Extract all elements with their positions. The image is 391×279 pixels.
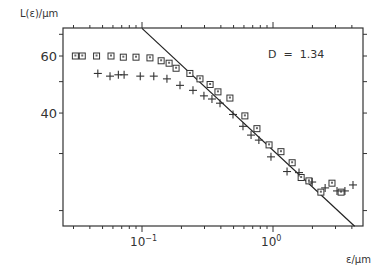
y-axis-label: L(ε)/μm bbox=[20, 8, 58, 19]
y-tick-labels: 6040 bbox=[40, 49, 57, 121]
cross-marker bbox=[136, 72, 144, 80]
cross-marker bbox=[106, 72, 114, 80]
cross-marker bbox=[229, 110, 237, 118]
y-tick-label: 60 bbox=[40, 49, 57, 64]
cross-marker bbox=[216, 99, 224, 107]
x-axis-label: ε/μm bbox=[346, 254, 371, 265]
x-tick-label: 10−1 bbox=[130, 234, 157, 249]
cross-marker bbox=[150, 72, 158, 80]
x-tick-label: 100 bbox=[261, 234, 281, 249]
chart: L(ε)/μm ε/μm D = 1.34 10−1100 6040 bbox=[0, 0, 391, 279]
square-series bbox=[72, 53, 344, 195]
cross-marker bbox=[267, 153, 275, 161]
cross-marker bbox=[349, 181, 357, 189]
cross-marker bbox=[189, 86, 197, 94]
cross-marker bbox=[176, 81, 184, 89]
cross-marker bbox=[94, 69, 102, 77]
x-tick-labels: 10−1100 bbox=[130, 234, 281, 249]
y-tick-label: 40 bbox=[40, 106, 57, 121]
cross-marker bbox=[163, 75, 171, 83]
cross-marker bbox=[200, 92, 208, 100]
cross-series bbox=[94, 69, 357, 194]
cross-marker bbox=[239, 122, 247, 130]
cross-marker bbox=[283, 168, 291, 176]
cross-marker bbox=[120, 71, 128, 79]
cross-marker bbox=[255, 136, 263, 144]
annotation-d-value: D = 1.34 bbox=[268, 48, 324, 61]
